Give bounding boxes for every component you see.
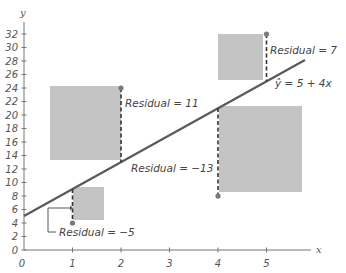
y-tick-label: 12 (5, 164, 18, 175)
data-point (70, 220, 75, 225)
data-point (264, 31, 269, 36)
residual-plot: 02468101214161820222426283032 012345 y x… (0, 0, 346, 273)
residual-label-x4: Residual = −13 (131, 162, 213, 174)
residual-square-x1 (73, 187, 104, 220)
y-tick-label: 0 (12, 245, 18, 256)
residual-label-x1: Residual = −5 (59, 226, 135, 238)
residual-square-x4 (219, 106, 302, 192)
residual-square-x2 (50, 86, 121, 160)
data-point (118, 85, 123, 90)
y-axis-label: y (19, 7, 26, 18)
y-tick-label: 30 (5, 42, 18, 53)
y-tick-label: 4 (12, 218, 18, 229)
x-tick-label: 3 (166, 258, 172, 269)
x-tick-label: 4 (215, 258, 221, 269)
x-ticks: 012345 (19, 248, 270, 270)
x-tick-label: 1 (69, 258, 75, 269)
y-tick-label: 26 (5, 69, 18, 80)
y-tick-label: 8 (12, 191, 18, 202)
x-axis-label: x (316, 244, 322, 255)
y-tick-label: 16 (5, 137, 18, 148)
x-tick-label: 5 (263, 258, 269, 269)
y-tick-label: 10 (5, 177, 18, 188)
y-tick-label: 6 (12, 204, 18, 215)
x-tick-label: 0 (19, 258, 25, 269)
y-tick-label: 18 (5, 123, 18, 134)
x-tick-label: 2 (118, 258, 124, 269)
y-tick-label: 28 (5, 56, 18, 67)
y-tick-label: 32 (5, 29, 18, 40)
y-tick-label: 24 (5, 83, 18, 94)
y-tick-label: 2 (12, 231, 18, 242)
y-ticks: 02468101214161820222426283032 (5, 29, 26, 256)
y-tick-label: 14 (5, 150, 18, 161)
y-tick-label: 22 (5, 96, 18, 107)
residual-label-x2: Residual = 11 (125, 97, 199, 109)
data-point (215, 193, 220, 198)
residual-label-x5: Residual = 7 (270, 44, 337, 56)
y-tick-label: 20 (5, 110, 18, 121)
regression-equation: ŷ = 5 + 4x (274, 77, 333, 89)
residual-square-x5 (218, 34, 263, 80)
